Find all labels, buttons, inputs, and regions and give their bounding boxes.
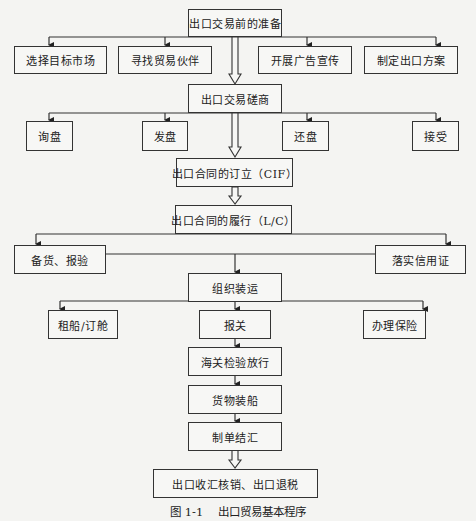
node-label: 选择目标市场 [26,52,95,68]
node-label: 接受 [424,128,447,144]
node-label: 办理保险 [372,317,418,333]
node-inquiry: 询盘 [26,121,73,151]
node-contract-sign: 出口合同的订立（CIF） [176,158,293,187]
node-label: 开展广告宣传 [271,52,340,68]
node-label: 询盘 [38,128,61,144]
node-label: 出口收汇核销、出口退税 [172,476,299,492]
node-label: 备货、报验 [31,252,89,268]
node-label: 货物装船 [212,392,258,408]
node-final: 出口收汇核销、出口退税 [153,469,318,498]
node-label: 租船/订舱 [58,317,108,333]
node-settlement: 制单结汇 [188,422,282,451]
node-offer: 发盘 [142,121,188,151]
node-charter-booking: 租船/订舱 [48,310,118,339]
node-advertising: 开展广告宣传 [258,46,352,74]
node-loading: 货物装船 [188,385,282,414]
node-shipping: 组织装运 [188,273,282,302]
node-select-market: 选择目标市场 [14,46,107,74]
node-prepare-goods: 备货、报验 [14,245,106,274]
node-label: 还盘 [294,128,317,144]
node-insurance: 办理保险 [363,310,426,339]
node-customs-declaration: 报关 [199,310,271,339]
node-find-partner: 寻找贸易伙伴 [118,46,212,74]
node-prep: 出口交易前的准备 [188,9,282,37]
node-label: 海关检验放行 [201,354,270,370]
node-counter-offer: 还盘 [282,121,329,151]
node-label: 出口合同的订立（CIF） [172,165,297,181]
node-confirm-lc: 落实信用证 [375,245,466,274]
node-export-plan: 制定出口方案 [364,46,458,74]
node-customs-release: 海关检验放行 [188,347,282,376]
node-label: 出口交易前的准备 [189,15,281,31]
node-label: 出口交易磋商 [201,91,270,107]
node-label: 寻找贸易伙伴 [131,52,200,68]
node-label: 出口合同的履行（L/C） [171,212,295,228]
figure-caption: 图 1-1 出口贸易基本程序 [0,503,476,519]
node-label: 发盘 [154,128,177,144]
node-label: 制定出口方案 [377,52,446,68]
node-label: 组织装运 [212,280,258,296]
node-label: 报关 [224,317,247,333]
node-label: 落实信用证 [392,252,450,268]
node-negotiate: 出口交易磋商 [188,84,282,113]
node-acceptance: 接受 [412,121,459,151]
node-label: 制单结汇 [212,429,258,445]
node-contract-perform: 出口合同的履行（L/C） [175,205,292,234]
